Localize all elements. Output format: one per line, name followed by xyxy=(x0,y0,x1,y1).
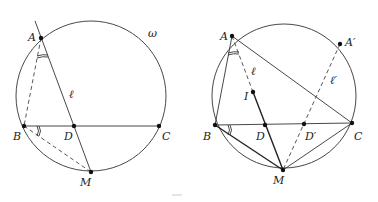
label-B: B xyxy=(12,130,21,143)
label-C: C xyxy=(162,130,171,143)
label-B: B xyxy=(202,130,211,143)
point-A xyxy=(230,34,234,38)
segment-AB-dashed xyxy=(24,38,41,126)
circumcircle xyxy=(212,24,356,168)
label-l-prime: ℓ′ xyxy=(330,74,338,87)
point-B xyxy=(213,123,217,127)
geometry-diagram: A B D C M ω ℓ A A′ I B D D′ C xyxy=(0,0,378,202)
label-M: M xyxy=(272,174,285,187)
segment-BC xyxy=(215,123,352,125)
point-B xyxy=(22,124,26,128)
point-D xyxy=(72,124,76,128)
label-D-prime: D′ xyxy=(304,130,317,143)
label-C: C xyxy=(354,130,363,143)
point-A xyxy=(39,36,43,40)
segment-AI-dashed xyxy=(232,36,253,92)
point-C xyxy=(350,121,354,125)
label-omega: ω xyxy=(148,27,157,40)
point-I xyxy=(251,90,255,94)
label-I: I xyxy=(243,90,249,103)
angle-mark-A-2 xyxy=(228,54,239,55)
label-A: A xyxy=(219,30,228,43)
angle-mark-A-2 xyxy=(37,57,48,58)
segment-AB xyxy=(215,36,232,125)
angle-mark-B-2 xyxy=(230,125,232,135)
left-figure: A B D C M ω ℓ xyxy=(12,21,171,189)
circle-omega xyxy=(16,21,166,171)
label-l: ℓ xyxy=(69,88,74,101)
point-A-prime xyxy=(338,42,342,46)
label-M: M xyxy=(79,176,92,189)
line-l xyxy=(35,21,91,172)
segment-BM-dashed xyxy=(24,126,91,172)
point-C xyxy=(157,124,161,128)
label-A: A xyxy=(27,31,36,44)
angle-mark-A-1 xyxy=(37,55,48,56)
segment-BM xyxy=(215,125,283,170)
label-D: D xyxy=(63,130,73,143)
angle-mark-B-1 xyxy=(37,126,39,136)
label-l: ℓ xyxy=(251,65,256,78)
point-M xyxy=(281,168,285,172)
angle-mark-B-2 xyxy=(39,126,41,136)
angle-mark-A-1 xyxy=(228,52,239,53)
label-D: D xyxy=(255,130,265,143)
right-figure: A A′ I B D D′ C M ℓ ℓ′ xyxy=(202,24,363,187)
point-M xyxy=(89,170,93,174)
point-D xyxy=(263,123,267,127)
label-A-prime: A′ xyxy=(344,36,356,49)
point-D-prime xyxy=(302,122,306,126)
